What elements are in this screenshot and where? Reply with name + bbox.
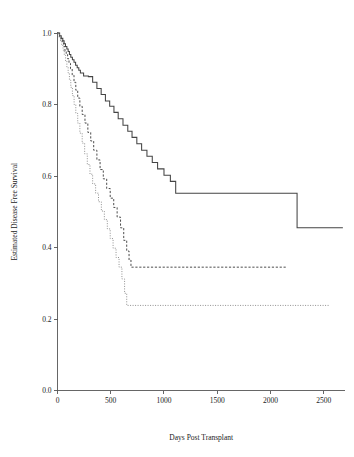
x-axis-title: Days Post Transplant bbox=[169, 433, 234, 442]
y-tick-label: 0.4 bbox=[42, 243, 52, 252]
x-tick-label: 2000 bbox=[263, 396, 278, 405]
axis-labels: 0.00.20.40.60.81.005001000150020002500Da… bbox=[10, 29, 331, 442]
plot-axes bbox=[54, 32, 345, 394]
kaplan-meier-figure: 0.00.20.40.60.81.005001000150020002500Da… bbox=[0, 0, 354, 457]
y-tick-label: 0.0 bbox=[42, 386, 52, 395]
y-tick-label: 1.0 bbox=[42, 29, 52, 38]
survival-curves bbox=[58, 33, 343, 305]
x-tick-label: 1000 bbox=[156, 396, 171, 405]
curve-group-3-dotted bbox=[58, 33, 330, 305]
survival-plot: 0.00.20.40.60.81.005001000150020002500Da… bbox=[0, 0, 354, 457]
x-tick-label: 0 bbox=[56, 396, 60, 405]
curve-group-1-solid bbox=[58, 33, 343, 228]
x-tick-label: 500 bbox=[105, 396, 117, 405]
curve-group-2-dashed bbox=[58, 33, 287, 267]
y-tick-label: 0.6 bbox=[42, 172, 52, 181]
y-tick-label: 0.8 bbox=[42, 100, 52, 109]
x-tick-label: 2500 bbox=[316, 396, 331, 405]
x-tick-label: 1500 bbox=[210, 396, 225, 405]
y-tick-label: 0.2 bbox=[42, 315, 52, 324]
y-axis-title: Estimated Disease Free Survival bbox=[10, 163, 19, 261]
